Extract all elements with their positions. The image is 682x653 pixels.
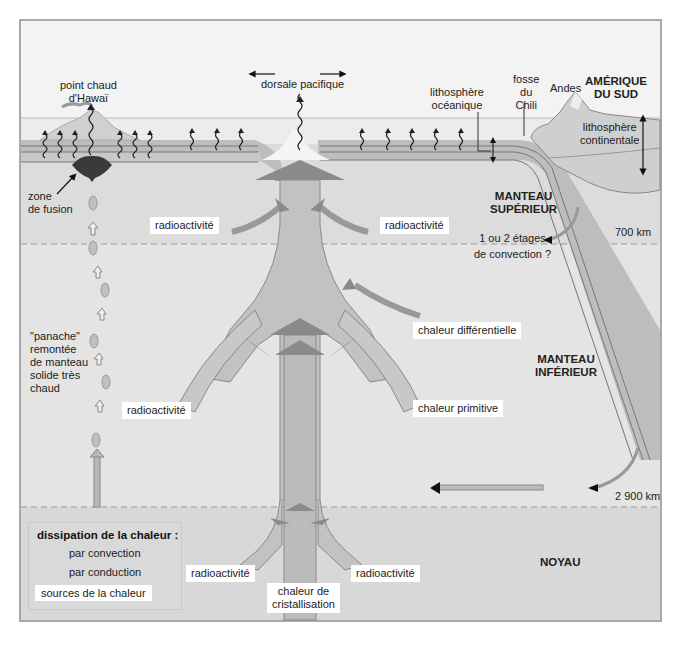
legend-label: par convection — [69, 547, 141, 559]
legend-item-conduction: par conduction — [69, 566, 141, 578]
label-line: de manteau — [30, 356, 88, 369]
label-line: lithosphère — [580, 121, 639, 134]
legend-label: par conduction — [69, 566, 141, 578]
label-line: SUPÉRIEUR — [490, 203, 557, 216]
label-crystallisation-heat: chaleur de cristallisation — [267, 583, 340, 613]
label-line: Chili — [513, 99, 539, 112]
label-pacific-ridge: dorsale pacifique — [261, 78, 344, 91]
label-melting-zone: zone de fusion — [28, 190, 73, 216]
legend-item-convection: par convection — [69, 547, 141, 559]
label-line: cristallisation — [272, 598, 335, 611]
label-core: NOYAU — [540, 556, 580, 569]
label-line: MANTEAU — [535, 353, 597, 366]
lower-flow-arrow — [437, 485, 543, 490]
label-hotspot-hawaii: point chaud d'Hawaï — [60, 79, 117, 105]
label-south-america: AMÉRIQUE DU SUD — [585, 75, 647, 101]
mantle-convection-diagram: point chaud d'Hawaï dorsale pacifique li… — [0, 0, 682, 653]
label-radioactivity-core-right: radioactivité — [351, 565, 420, 582]
label-convection-question: 1 ou 2 étages de convection ? — [474, 230, 551, 262]
label-line: zone — [28, 190, 73, 203]
legend-item-heat-sources: sources de la chaleur — [35, 585, 152, 601]
label-differential-heat: chaleur différentielle — [413, 322, 521, 339]
legend: dissipation de la chaleur : par convecti… — [28, 522, 182, 610]
label-line: 1 ou 2 étages — [474, 230, 551, 246]
label-line: de convection ? — [474, 246, 551, 262]
core-heat-column — [284, 335, 316, 620]
label-line: océanique — [430, 99, 484, 112]
label-line: MANTEAU — [490, 190, 557, 203]
label-line: INFÉRIEUR — [535, 366, 597, 379]
label-line: fosse — [513, 73, 539, 86]
label-line: chaleur de — [272, 585, 335, 598]
label-radioactivity-upper-left: radioactivité — [150, 217, 219, 234]
label-radioactivity-mid-left: radioactivité — [122, 402, 191, 419]
label-continental-lithosphere: lithosphère continentale — [580, 121, 639, 147]
label-line: "panache" — [30, 330, 88, 343]
label-depth-2900: 2 900 km — [615, 490, 660, 503]
label-andes: Andes — [550, 82, 581, 95]
label-chile-trench: fosse du Chili — [513, 73, 539, 112]
label-depth-700: 700 km — [615, 226, 651, 239]
label-line: d'Hawaï — [60, 92, 117, 105]
label-radioactivity-upper-right: radioactivité — [380, 217, 449, 234]
label-lower-mantle: MANTEAU INFÉRIEUR — [535, 353, 597, 379]
label-line: point chaud — [60, 79, 117, 92]
label-primitive-heat: chaleur primitive — [413, 400, 503, 417]
legend-title: dissipation de la chaleur : — [37, 529, 178, 541]
label-radioactivity-core-left: radioactivité — [186, 565, 255, 582]
label-line: DU SUD — [585, 88, 647, 101]
label-line: remontée — [30, 343, 88, 356]
label-oceanic-lithosphere: lithosphère océanique — [430, 86, 484, 112]
label-plume: "panache" remontée de manteau solide trè… — [30, 330, 88, 395]
label-line: solide très — [30, 369, 88, 382]
label-line: chaud — [30, 382, 88, 395]
label-line: lithosphère — [430, 86, 484, 99]
label-line: de fusion — [28, 203, 73, 216]
label-line: AMÉRIQUE — [585, 75, 647, 88]
label-line: du — [513, 86, 539, 99]
plume-base-arrow — [94, 455, 100, 507]
label-upper-mantle: MANTEAU SUPÉRIEUR — [490, 190, 557, 216]
label-line: continentale — [580, 134, 639, 147]
